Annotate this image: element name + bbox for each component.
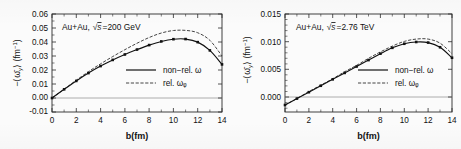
ytick-label: 0.04: [32, 38, 48, 47]
legend-label-nonrel: non−rel. ω: [395, 66, 434, 75]
data-point-marker: [87, 72, 90, 75]
xtick-label: 12: [193, 116, 203, 125]
data-point-marker: [148, 44, 151, 47]
ytick-label: 0.005: [261, 65, 282, 74]
data-point-marker: [319, 84, 322, 87]
ytick-label: -0.01: [29, 107, 48, 116]
data-point-marker: [284, 104, 287, 107]
figure-container: 0.06 0.05 0.04 0.03 0.02 0.01 0.00 -0.01…: [0, 0, 461, 149]
ytick-label: 0.000: [261, 93, 282, 102]
data-point-marker: [221, 63, 224, 66]
xtick-label: 2: [307, 116, 312, 125]
chart-panel-right: 0.015 0.010 0.005 0.000 0 2 4 6 8 10 12 …: [230, 0, 461, 149]
data-point-marker: [308, 91, 311, 94]
xtick-label: 0: [50, 116, 55, 125]
legend-left: non−rel. ω rel. ωᵩ: [126, 66, 202, 88]
xtick-label: 12: [424, 116, 434, 125]
ytick-label: 0.01: [32, 80, 48, 89]
ytick-label: 0.06: [32, 10, 48, 19]
ytick-label: 0.00: [32, 93, 48, 102]
data-point-marker: [415, 41, 418, 44]
xtick-label: 10: [400, 116, 410, 125]
xtick-label: 2: [74, 116, 79, 125]
legend-label-nonrel: non−rel. ω: [163, 66, 202, 75]
data-point-marker: [296, 97, 299, 100]
ytick-label: 0.015: [261, 10, 282, 19]
data-point-marker: [136, 48, 139, 51]
y-axis-title: −⟨ω̄y⟩ (fm−1): [12, 39, 23, 86]
xtick-label: 10: [169, 116, 179, 125]
ytick-label: 0.02: [32, 66, 48, 75]
ytick-label: 0.010: [261, 38, 282, 47]
xtick-label: 4: [330, 116, 335, 125]
ytick-label: 0.03: [32, 52, 48, 61]
data-point-marker: [111, 59, 114, 62]
data-point-marker: [379, 52, 382, 55]
xtick-label: 14: [447, 116, 457, 125]
data-point-marker: [439, 46, 442, 49]
y-axis-title: −⟨ω̄y⟩ (fm−1): [242, 36, 253, 83]
chart-panel-left: 0.06 0.05 0.04 0.03 0.02 0.01 0.00 -0.01…: [0, 0, 231, 149]
data-point-marker: [391, 47, 394, 50]
xtick-label: 6: [123, 116, 128, 125]
legend-label-rel: rel. ωᵩ: [395, 79, 419, 88]
series-rel-curve-left: [52, 30, 222, 98]
data-point-marker: [367, 59, 370, 62]
xtick-label: 4: [98, 116, 103, 125]
legend-label-rel: rel. ωᵩ: [163, 79, 187, 88]
x-axis-title: b(fm): [357, 131, 380, 141]
data-point-marker: [51, 97, 54, 100]
data-point-marker: [403, 42, 406, 45]
data-point-marker: [209, 49, 212, 52]
panel-annotation-left: Au+Au,√s=200 GeV: [62, 22, 141, 32]
data-point-marker: [355, 65, 358, 68]
data-point-marker: [172, 38, 175, 41]
panel-annotation-right: Au+Au,√s=2.76 TeV: [296, 22, 375, 32]
data-point-marker: [99, 65, 102, 68]
data-point-marker: [184, 38, 187, 41]
ytick-label: 0.05: [32, 24, 48, 33]
data-point-marker: [196, 41, 199, 44]
legend-right: non−rel. ω rel. ωᵩ: [358, 66, 434, 88]
data-point-marker: [63, 88, 66, 91]
data-point-marker: [160, 40, 163, 43]
xtick-label: 8: [147, 116, 152, 125]
data-point-marker: [343, 72, 346, 75]
svg-text:−⟨ω̄y⟩ (fm−1): −⟨ω̄y⟩ (fm−1): [12, 39, 23, 86]
x-axis-title: b(fm): [126, 131, 149, 141]
data-point-marker: [331, 78, 334, 81]
svg-text:−⟨ω̄y⟩ (fm−1): −⟨ω̄y⟩ (fm−1): [242, 36, 253, 83]
plot-right-svg: 0.015 0.010 0.005 0.000 0 2 4 6 8 10 12 …: [230, 0, 461, 149]
data-point-marker: [427, 41, 430, 44]
plot-left-svg: 0.06 0.05 0.04 0.03 0.02 0.01 0.00 -0.01…: [0, 0, 231, 149]
data-point-marker: [124, 53, 127, 56]
data-point-marker: [75, 80, 78, 83]
xtick-label: 14: [217, 116, 227, 125]
xtick-label: 0: [283, 116, 288, 125]
xtick-label: 6: [354, 116, 359, 125]
data-point-marker: [451, 56, 454, 59]
xtick-label: 8: [378, 116, 383, 125]
